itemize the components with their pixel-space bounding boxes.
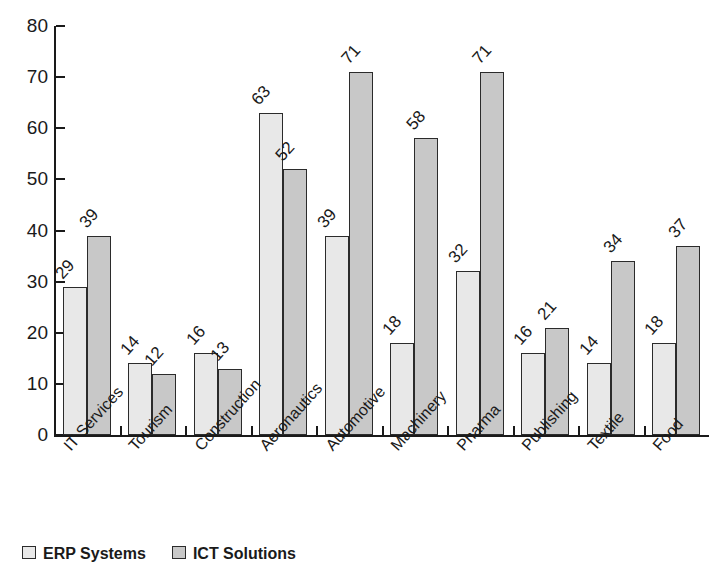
chart-legend: ERP SystemsICT Solutions: [22, 546, 296, 562]
legend-swatch: [172, 546, 186, 559]
legend-entry[interactable]: ERP Systems: [22, 546, 146, 562]
y-axis-tick-label: 60: [4, 118, 48, 137]
y-axis-tick-label: 50: [4, 169, 48, 188]
y-axis-tick-label: 40: [4, 221, 48, 240]
bar: [456, 271, 480, 435]
legend-label: ICT Solutions: [193, 546, 296, 562]
y-axis-tick-label: 20: [4, 323, 48, 342]
bar: [480, 72, 504, 435]
legend-label: ERP Systems: [43, 546, 146, 562]
legend-swatch: [22, 546, 36, 559]
bar: [676, 246, 700, 435]
y-axis-tick-label: 10: [4, 374, 48, 393]
y-axis-tick-label: 80: [4, 16, 48, 35]
y-axis-tick-label: 70: [4, 67, 48, 86]
y-axis-tick-label: 30: [4, 272, 48, 291]
bar: [63, 287, 87, 435]
bar: [349, 72, 373, 435]
bar: [325, 236, 349, 435]
legend-entry[interactable]: ICT Solutions: [172, 546, 296, 562]
y-axis-tick-label: 0: [4, 425, 48, 444]
